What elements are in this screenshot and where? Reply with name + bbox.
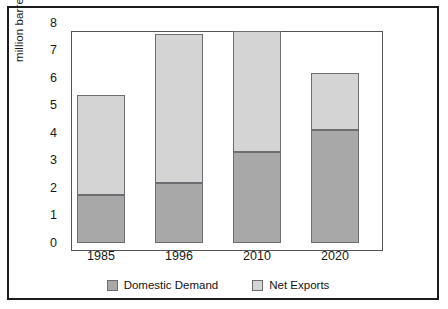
- y-axis-title: million barrels per day: [13, 0, 29, 62]
- bar-segment-net-exports: [155, 34, 203, 183]
- y-axis-tick-label: 7: [35, 44, 57, 57]
- legend-label: Net Exports: [269, 279, 329, 291]
- legend-item: Domestic Demand: [107, 279, 219, 291]
- y-axis-tick-label: 8: [35, 17, 57, 30]
- x-axis-tick-label: 1996: [139, 249, 219, 263]
- y-axis-tick-label: 2: [35, 182, 57, 195]
- y-axis-tick-label: 4: [35, 127, 57, 140]
- chart-legend: Domestic DemandNet Exports: [62, 276, 374, 294]
- bar-segment-domestic-demand: [77, 195, 125, 243]
- y-axis-ticks: 876543210: [32, 0, 57, 309]
- x-axis-tick-label: 1985: [61, 249, 141, 263]
- bar-segment-domestic-demand: [311, 130, 359, 243]
- bar-segment-net-exports: [233, 31, 281, 152]
- legend-label: Domestic Demand: [124, 279, 219, 291]
- y-axis-tick-label: 3: [35, 154, 57, 167]
- y-axis-tick-label: 5: [35, 99, 57, 112]
- bar-segment-domestic-demand: [155, 183, 203, 244]
- y-axis-tick-label: 1: [35, 209, 57, 222]
- bar-segment-domestic-demand: [233, 152, 281, 243]
- bar-segment-net-exports: [77, 95, 125, 195]
- x-axis-tick-label: 2010: [217, 249, 297, 263]
- legend-item: Net Exports: [252, 279, 329, 291]
- y-axis-tick-label: 0: [35, 237, 57, 250]
- legend-swatch-icon: [107, 280, 118, 291]
- bar-segment-net-exports: [311, 73, 359, 131]
- legend-swatch-icon: [252, 280, 263, 291]
- x-axis-tick-label: 2020: [295, 249, 375, 263]
- y-axis-tick-label: 6: [35, 72, 57, 85]
